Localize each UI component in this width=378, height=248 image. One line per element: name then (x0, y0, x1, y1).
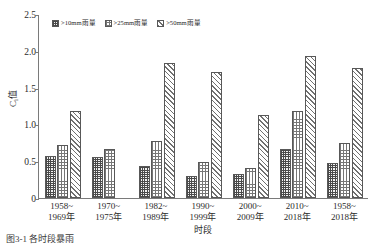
x-axis-tick-label-line: 1990~ (179, 201, 226, 212)
bar-group (180, 15, 227, 198)
x-axis-tick-label-line: 1989年 (132, 212, 179, 223)
y-axis-tick-label: 0.5 (10, 158, 36, 167)
chart-legend: >10mm雨量>25mm雨量>50mm雨量 (52, 19, 201, 27)
bar (327, 163, 338, 198)
plot-area (38, 15, 368, 199)
y-axis-tick-label: 0 (10, 195, 36, 204)
y-axis-tick-mark (35, 199, 39, 200)
figure-caption: 图3-1 各时段暴雨 (6, 232, 156, 245)
x-axis-tick-label-line: 1958~ (38, 201, 85, 212)
bar-groups (39, 15, 368, 198)
bar-group (227, 15, 274, 198)
bar (198, 162, 209, 198)
bar (280, 149, 291, 198)
x-axis-tick-label-line: 2018年 (321, 212, 368, 223)
bar (352, 68, 363, 198)
bar (292, 111, 303, 198)
x-axis-tick-label: 1958~2018年 (321, 201, 368, 223)
bar (139, 166, 150, 198)
x-axis-tick-label-line: 1970~ (85, 201, 132, 212)
bar (233, 174, 244, 198)
x-axis-tick-label-line: 1982~ (132, 201, 179, 212)
bar-group (39, 15, 86, 198)
x-axis-tick-label: 2000~2009年 (227, 201, 274, 223)
x-axis-tick-label: 1970~1975年 (85, 201, 132, 223)
legend-label: >50mm雨量 (166, 19, 201, 27)
x-axis-tick-label: 1958~1969年 (38, 201, 85, 223)
x-axis-tick-label-line: 2009年 (227, 212, 274, 223)
bar-group (321, 15, 368, 198)
bar (57, 145, 68, 198)
bar (70, 111, 81, 198)
y-axis-tick-label: 1.0 (10, 121, 36, 130)
bar-group (133, 15, 180, 198)
y-axis-tick-labels: 2.52.01.51.00.50 (10, 0, 36, 248)
legend-label: >10mm雨量 (61, 19, 96, 27)
bar (211, 72, 222, 198)
legend-item: >10mm雨量 (52, 19, 96, 27)
bar (245, 168, 256, 198)
legend-item: >50mm雨量 (157, 19, 201, 27)
figure-container: Ci值 2.52.01.51.00.50 >10mm雨量>25mm雨量>50mm… (0, 0, 378, 248)
x-axis-tick-label-line: 2018年 (274, 212, 321, 223)
legend-swatch (52, 20, 59, 27)
bar-group (86, 15, 133, 198)
y-axis-tick-label: 1.5 (10, 84, 36, 93)
bar (258, 115, 269, 198)
x-axis-tick-label-line: 2010~ (274, 201, 321, 212)
bar (164, 63, 175, 198)
bar-group (274, 15, 321, 198)
x-axis-tick-label: 2010~2018年 (274, 201, 321, 223)
x-axis-tick-label-line: 1958~ (321, 201, 368, 212)
legend-label: >25mm雨量 (114, 19, 149, 27)
bar (151, 141, 162, 198)
y-axis-tick-label: 2.0 (10, 47, 36, 56)
x-axis-tick-label-line: 1999年 (179, 212, 226, 223)
bar (92, 157, 103, 198)
bar (186, 176, 197, 198)
x-axis-tick-label: 1982~1989年 (132, 201, 179, 223)
legend-swatch (157, 20, 164, 27)
x-axis-tick-label-line: 2000~ (227, 201, 274, 212)
bar (104, 149, 115, 198)
x-axis-tick-labels: 1958~1969年1970~1975年1982~1989年1990~1999年… (38, 201, 368, 223)
x-axis-tick-label: 1990~1999年 (179, 201, 226, 223)
bar (45, 156, 56, 198)
legend-swatch (105, 20, 112, 27)
y-axis-tick-label: 2.5 (10, 11, 36, 20)
bar (305, 56, 316, 198)
legend-item: >25mm雨量 (105, 19, 149, 27)
x-axis-tick-label-line: 1969年 (38, 212, 85, 223)
bar (339, 143, 350, 198)
x-axis-tick-label-line: 1975年 (85, 212, 132, 223)
